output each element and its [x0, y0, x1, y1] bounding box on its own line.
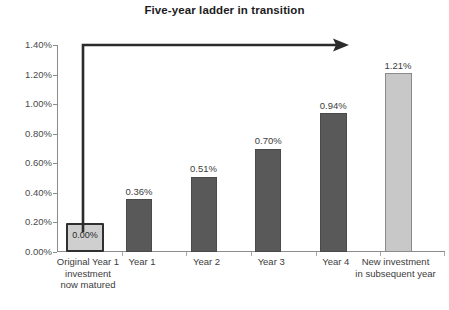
y-axis-tick-0.40	[53, 193, 57, 194]
y-axis-label-6: 1.20%	[8, 69, 52, 80]
chart-title: Five-year ladder in transition	[0, 4, 449, 16]
y-axis-line	[57, 45, 58, 252]
bar-value-year-2: 0.51%	[179, 163, 229, 174]
y-axis-tick-0.80	[53, 134, 57, 135]
plot-area: 0.00% 0.36% 0.51% 0.70% 0.94% 1.21%	[57, 45, 445, 252]
x-axis-category-5: New investment in subsequent year	[342, 256, 449, 279]
y-axis-tick-1.20	[53, 75, 57, 76]
bar-year-3	[255, 149, 281, 253]
bar-year-2	[191, 177, 217, 252]
y-axis-label-5: 1.00%	[8, 98, 52, 109]
y-axis-label-7: 1.40%	[8, 39, 52, 50]
bar-value-year-3: 0.70%	[243, 135, 293, 146]
y-axis-tick-0.20	[53, 222, 57, 223]
bar-value-original-year-1: 0.00%	[66, 230, 104, 240]
bar-value-new-investment: 1.21%	[373, 60, 424, 71]
y-axis-label-3: 0.60%	[8, 157, 52, 168]
bar-new-investment	[385, 73, 412, 252]
y-axis-label-2: 0.40%	[8, 187, 52, 198]
bar-year-1	[126, 199, 152, 252]
y-axis-tick-0.60	[53, 163, 57, 164]
y-axis-tick-0.00	[53, 252, 57, 253]
y-axis-label-1: 0.20%	[8, 216, 52, 227]
x-axis-category-1: Year 1	[111, 256, 173, 268]
bar-value-year-1: 0.36%	[114, 186, 164, 197]
bar-chart: Five-year ladder in transition 1.40% 1.2…	[0, 0, 449, 310]
y-axis-label-4: 0.80%	[8, 128, 52, 139]
x-axis-category-2: Year 2	[176, 256, 238, 268]
bar-value-year-4: 0.94%	[308, 100, 359, 111]
bar-year-4	[320, 113, 347, 252]
x-axis-category-3: Year 3	[240, 256, 302, 268]
y-axis-tick-1.00	[53, 104, 57, 105]
y-axis-tick-1.40	[53, 45, 57, 46]
